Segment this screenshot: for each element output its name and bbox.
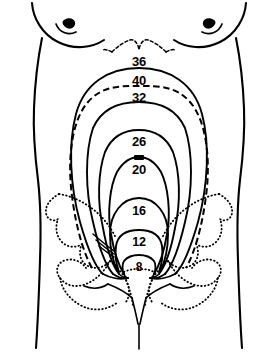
label-week-16: 16 xyxy=(121,205,157,218)
costal-margin-group xyxy=(103,40,175,52)
nipple-group xyxy=(63,18,216,28)
left-ramus-line xyxy=(84,284,108,288)
right-costal-margin-dashed xyxy=(139,40,166,52)
perineum-left-line xyxy=(132,298,138,324)
fundal-fan-tails xyxy=(103,274,175,279)
label-week-36: 36 xyxy=(121,55,157,68)
left-ilium-inner-dotted xyxy=(59,194,116,238)
label-week-26: 26 xyxy=(121,135,157,148)
left-costal-margin-tail xyxy=(103,50,112,52)
left-ischium-dotted xyxy=(60,278,118,309)
left-costal-margin-dashed xyxy=(112,40,139,52)
label-week-20: 20 xyxy=(121,163,157,176)
left-torso-outline xyxy=(34,38,42,348)
perineum-right-line xyxy=(140,298,146,324)
label-week-32: 32 xyxy=(121,91,157,104)
right-ilium-inner-dotted xyxy=(162,194,219,238)
right-torso-outline xyxy=(236,38,244,348)
label-week-8: 8 xyxy=(121,261,157,273)
right-ramus-line xyxy=(170,284,194,288)
label-week-40: 40 xyxy=(121,74,157,87)
pelvic-solid-group xyxy=(84,284,194,349)
right-costal-margin-tail xyxy=(166,50,175,52)
left-nipple-icon xyxy=(63,18,76,28)
areola-arc-group xyxy=(56,24,222,34)
right-nipple-icon xyxy=(203,18,216,28)
fundal-height-diagram: 36 40 32 26 20 16 12 8 xyxy=(0,0,277,352)
label-week-12: 12 xyxy=(121,236,157,249)
mark-above-label-20 xyxy=(134,155,144,160)
right-ischium-dotted xyxy=(160,278,218,309)
